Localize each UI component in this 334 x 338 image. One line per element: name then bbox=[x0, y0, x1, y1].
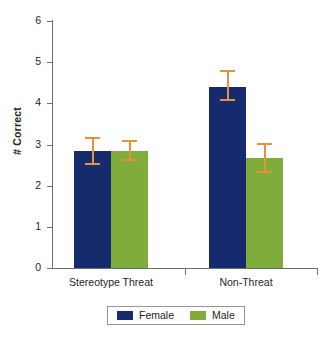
legend-item-male[interactable]: Male bbox=[190, 310, 235, 321]
bar-chart: # Correct 6 5 4 3 2 1 0 bbox=[0, 0, 334, 338]
error-cap-bottom bbox=[122, 159, 137, 161]
bar-non-threat-male[interactable] bbox=[246, 158, 283, 268]
plot-area bbox=[53, 21, 318, 268]
error-cap-bottom bbox=[220, 99, 235, 101]
legend: Female Male bbox=[107, 306, 245, 325]
bar-stereotype-threat-female[interactable] bbox=[74, 151, 111, 268]
error-bar-non-threat-female bbox=[220, 70, 236, 101]
error-bar-stereotype-threat-female bbox=[85, 137, 101, 165]
error-cap-bottom bbox=[85, 163, 100, 165]
x-tick-mid bbox=[185, 269, 186, 275]
y-axis-title: # Correct bbox=[11, 81, 23, 181]
error-bar-non-threat-male bbox=[257, 143, 273, 173]
x-axis-label-stereotype-threat: Stereotype Threat bbox=[51, 276, 171, 288]
legend-item-female[interactable]: Female bbox=[117, 310, 174, 321]
legend-swatch-male-icon bbox=[190, 311, 206, 320]
y-tick-0 bbox=[47, 268, 53, 269]
y-tick-label-1: 1 bbox=[7, 221, 41, 232]
y-tick-label-4: 4 bbox=[7, 97, 41, 108]
error-stem bbox=[92, 137, 94, 165]
y-tick-label-0: 0 bbox=[7, 262, 41, 273]
legend-swatch-female-icon bbox=[117, 311, 133, 320]
bar-stereotype-threat-male[interactable] bbox=[111, 151, 148, 268]
error-cap-bottom bbox=[257, 171, 272, 173]
y-tick-label-5: 5 bbox=[7, 56, 41, 67]
error-bar-stereotype-threat-male bbox=[122, 140, 138, 161]
error-stem bbox=[227, 70, 229, 101]
y-tick-label-3: 3 bbox=[7, 139, 41, 150]
y-tick-label-2: 2 bbox=[7, 180, 41, 191]
legend-label-female: Female bbox=[139, 310, 174, 321]
bar-non-threat-female[interactable] bbox=[209, 87, 246, 268]
y-tick-label-6: 6 bbox=[7, 15, 41, 26]
x-tick-end bbox=[317, 269, 318, 275]
x-axis-label-non-threat: Non-Threat bbox=[186, 276, 306, 288]
legend-label-male: Male bbox=[212, 310, 235, 321]
error-stem bbox=[264, 143, 266, 173]
error-stem bbox=[129, 140, 131, 161]
